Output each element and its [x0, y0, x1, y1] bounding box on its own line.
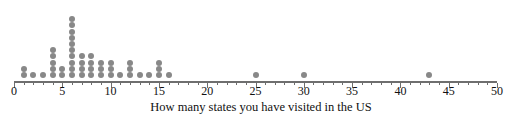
data-point-dot [69, 29, 75, 35]
data-point-dot [79, 66, 85, 72]
x-axis-minor-tick [72, 83, 73, 85]
data-point-dot [50, 66, 56, 72]
x-axis-tick-label: 30 [298, 85, 310, 97]
data-point-dot [40, 72, 46, 78]
x-axis-minor-tick [439, 83, 440, 85]
x-axis-minor-tick [130, 83, 131, 85]
data-point-dot [69, 35, 75, 41]
x-axis-minor-tick [43, 83, 44, 85]
data-point-dot [69, 22, 75, 28]
x-axis-minor-tick [188, 83, 189, 85]
x-axis-minor-tick [468, 83, 469, 85]
x-axis-minor-tick [120, 83, 121, 85]
data-point-dot [88, 60, 94, 66]
data-point-dot [253, 72, 259, 78]
dot-plot-chart: 05101520253035404550 How many states you… [0, 0, 519, 119]
data-point-dot [146, 72, 152, 78]
x-axis-minor-tick [227, 83, 228, 85]
x-axis-minor-tick [487, 83, 488, 85]
data-point-dot [88, 53, 94, 59]
data-point-dot [98, 60, 104, 66]
x-axis-minor-tick [101, 83, 102, 85]
data-point-dot [156, 66, 162, 72]
x-axis-minor-tick [236, 83, 237, 85]
data-point-dot [137, 72, 143, 78]
data-point-dot [117, 72, 123, 78]
x-axis-minor-tick [420, 83, 421, 85]
x-axis-minor-tick [217, 83, 218, 85]
x-axis-minor-tick [362, 83, 363, 85]
data-point-dot [59, 72, 65, 78]
x-axis-tick-label: 35 [346, 85, 358, 97]
x-axis-minor-tick [82, 83, 83, 85]
data-point-dot [127, 66, 133, 72]
x-axis-minor-tick [24, 83, 25, 85]
x-axis-minor-tick [478, 83, 479, 85]
data-point-dot [79, 72, 85, 78]
x-axis-tick-label: 25 [250, 85, 262, 97]
x-axis-minor-tick [246, 83, 247, 85]
x-axis-tick-label: 50 [491, 85, 503, 97]
data-point-dot [127, 60, 133, 66]
x-axis-minor-tick [178, 83, 179, 85]
x-axis-tick-label: 20 [201, 85, 213, 97]
x-axis-minor-tick [33, 83, 34, 85]
data-point-dot [50, 47, 56, 53]
x-axis-minor-tick [169, 83, 170, 85]
data-point-dot [88, 72, 94, 78]
data-point-dot [69, 47, 75, 53]
x-axis-minor-tick [371, 83, 372, 85]
x-axis-minor-tick [294, 83, 295, 85]
x-axis-minor-tick [140, 83, 141, 85]
x-axis-minor-tick [265, 83, 266, 85]
data-point-dot [166, 72, 172, 78]
data-point-dot [21, 72, 27, 78]
x-axis-minor-tick [391, 83, 392, 85]
x-axis-tick-label: 40 [394, 85, 406, 97]
data-point-dot [108, 66, 114, 72]
x-axis-minor-tick [149, 83, 150, 85]
data-point-dot [127, 72, 133, 78]
data-point-dot [426, 72, 432, 78]
data-point-dot [301, 72, 307, 78]
data-point-dot [98, 66, 104, 72]
data-point-dot [69, 53, 75, 59]
data-point-dot [108, 60, 114, 66]
data-point-dot [108, 72, 114, 78]
x-axis-minor-tick [429, 83, 430, 85]
data-point-dot [156, 72, 162, 78]
x-axis-minor-tick [313, 83, 314, 85]
data-point-dot [50, 72, 56, 78]
data-point-dot [79, 53, 85, 59]
data-point-dot [88, 66, 94, 72]
x-axis-tick-label: 10 [105, 85, 117, 97]
data-point-dot [156, 60, 162, 66]
x-axis-title: How many states you have visited in the … [150, 100, 372, 114]
x-axis-minor-tick [284, 83, 285, 85]
data-point-dot [79, 60, 85, 66]
data-point-dot [69, 16, 75, 22]
data-point-dot [69, 41, 75, 47]
x-axis-minor-tick [410, 83, 411, 85]
data-point-dot [69, 66, 75, 72]
x-axis-minor-tick [91, 83, 92, 85]
x-axis-minor-tick [381, 83, 382, 85]
data-point-dot [98, 72, 104, 78]
data-point-dot [59, 66, 65, 72]
data-point-dot [30, 72, 36, 78]
x-axis-minor-tick [323, 83, 324, 85]
x-axis-tick-label: 15 [153, 85, 165, 97]
x-axis-minor-tick [275, 83, 276, 85]
x-axis-tick-label: 5 [59, 85, 65, 97]
x-axis-tick-label: 0 [11, 85, 17, 97]
data-point-dot [69, 60, 75, 66]
x-axis-minor-tick [198, 83, 199, 85]
data-point-dot [69, 72, 75, 78]
data-point-dot [21, 66, 27, 72]
x-axis-minor-tick [53, 83, 54, 85]
data-point-dot [50, 60, 56, 66]
x-axis-tick-label: 45 [443, 85, 455, 97]
x-axis-minor-tick [458, 83, 459, 85]
x-axis-minor-tick [342, 83, 343, 85]
data-point-dot [50, 53, 56, 59]
